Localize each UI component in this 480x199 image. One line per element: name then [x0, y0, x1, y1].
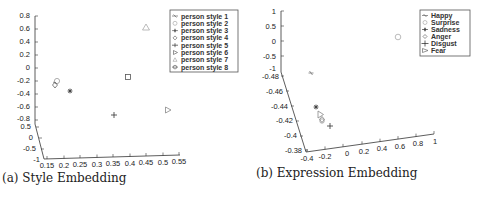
marker-sadness — [314, 105, 319, 110]
caption-style-embedding: (a) Style Embedding — [2, 171, 126, 185]
z-tick: 0.5 — [21, 122, 31, 131]
z-tick: 0.5 — [266, 22, 276, 31]
legend: Happy Surprise Sadness Anger Disgust Fea… — [420, 10, 470, 56]
marker-person-style-8 — [126, 75, 131, 80]
y-tick: -0.48 — [262, 72, 279, 81]
y-tick: 0 — [26, 63, 30, 72]
z-tick: 0 — [29, 133, 33, 142]
legend: person style 1 person style 2 person sty… — [170, 10, 238, 72]
x-tick: 0.3 — [92, 160, 102, 169]
x-tick: 1 — [433, 137, 437, 146]
z-tick: -0.5 — [23, 144, 36, 153]
x-tick: 0.5 — [158, 158, 168, 167]
y-tick: -0.4 — [284, 131, 297, 140]
x-tick: 0.55 — [172, 157, 187, 166]
x-tick: 0.35 — [106, 159, 121, 168]
x-tick: 0.15 — [40, 161, 55, 170]
x-tick: -0.4 — [301, 154, 314, 163]
marker-surprise — [395, 34, 401, 40]
expression-embedding-plot: 1 0.5 0 -0.5 -1 -0.48 -0.46 -0.44 -0.42 … — [262, 7, 470, 164]
y-tick: -0.42 — [276, 116, 293, 125]
z-tick: 1 — [272, 7, 276, 16]
x-tick: 0.2 — [59, 161, 69, 170]
x-tick: 0.8 — [413, 139, 423, 148]
z-tick: -0.5 — [263, 52, 276, 61]
y-tick: -0.6 — [17, 102, 30, 111]
x-tick: 0.4 — [377, 144, 387, 153]
marker-disgust — [327, 123, 333, 129]
y-tick: 0.8 — [20, 11, 30, 20]
z-axis-ticks: 0.5 0 -0.5 -1 — [21, 122, 44, 164]
style-embedding-plot: 0.8 0.6 0.4 0.2 0 -0.2 -0.4 -0.6 -0.8 0.… — [17, 10, 238, 170]
y-tick: 0.6 — [20, 24, 30, 33]
x-tick: 0.4 — [125, 159, 135, 168]
y-tick: -0.38 — [285, 146, 302, 155]
marker-person-style-7 — [143, 24, 150, 30]
x-tick: 0.6 — [395, 142, 405, 151]
x-axis-ticks: -0.4 -0.2 0 0.2 0.4 0.6 0.8 1 — [301, 131, 438, 163]
x-tick: -0.2 — [319, 152, 332, 161]
legend-label: Sadness — [431, 26, 460, 33]
marker-happy — [309, 71, 314, 75]
marker-person-style-5 — [111, 112, 117, 118]
x-axis-ticks: 0.15 0.2 0.25 0.3 0.35 0.4 0.45 0.5 0.55 — [40, 152, 187, 170]
data-points — [309, 34, 401, 129]
y-tick: 0.2 — [20, 50, 30, 59]
z-tick: 0 — [272, 37, 276, 46]
y-tick: -0.46 — [266, 87, 283, 96]
x-tick: 0.25 — [73, 160, 88, 169]
y-tick: -0.2 — [17, 76, 30, 85]
caption-expression-embedding: (b) Expression Embedding — [256, 166, 417, 180]
legend-label: person style 8 — [181, 64, 228, 72]
marker-person-style-3 — [68, 89, 73, 94]
x-tick: 0.2 — [359, 147, 369, 156]
y-tick: -0.4 — [17, 89, 30, 98]
data-points — [53, 24, 172, 118]
y-tick: -0.44 — [271, 102, 288, 111]
legend-label: Fear — [431, 47, 446, 54]
x-tick: 0 — [345, 149, 349, 158]
marker-person-style-6 — [166, 107, 172, 113]
x-tick: 0.45 — [139, 158, 154, 167]
y-tick: 0.4 — [20, 37, 30, 46]
